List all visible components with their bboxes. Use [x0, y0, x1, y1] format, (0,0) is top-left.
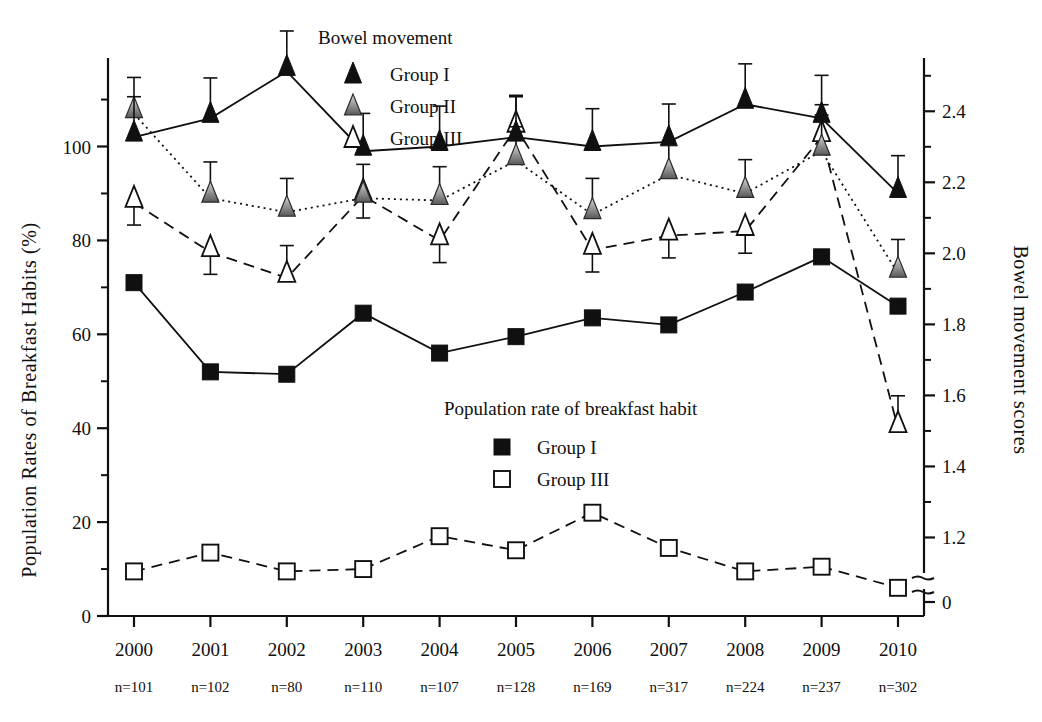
- marker-open-square: [355, 561, 371, 577]
- marker-open-square: [279, 563, 295, 579]
- left-tick-label: 20: [72, 512, 91, 533]
- marker-open-triangle: [890, 411, 907, 432]
- legend-bottom-title: Population rate of breakfast habit: [444, 398, 698, 419]
- x-sample-size-label: n=302: [879, 679, 917, 695]
- legend-top-title: Bowel movement: [318, 27, 453, 48]
- marker-filled-square: [737, 284, 753, 300]
- marker-open-square: [202, 545, 218, 561]
- marker-open-square: [126, 563, 142, 579]
- legend-top-item-label: Group III: [390, 128, 462, 149]
- legend-icon-filled-square: [494, 439, 510, 455]
- marker-gray-triangle: [890, 256, 907, 277]
- y-axis-left-title: Population Rates of Breakfast Habits (%): [18, 222, 41, 578]
- x-tick-label-year: 2009: [803, 639, 841, 660]
- right-tick-label: 0: [942, 592, 952, 613]
- right-tick-label: 1.4: [942, 456, 966, 477]
- marker-filled-square: [279, 366, 295, 382]
- x-sample-size-label: n=101: [115, 679, 153, 695]
- marker-open-square: [584, 505, 600, 521]
- marker-filled-square: [126, 275, 142, 291]
- series-line-breakfast-group-i: [134, 257, 898, 374]
- legend-icon-filled-triangle: [345, 62, 362, 83]
- left-tick-label: 100: [63, 137, 92, 158]
- left-tick-label: 40: [72, 418, 91, 439]
- marker-open-triangle: [126, 186, 143, 207]
- chart-canvas: 02040608010001.21.41.61.82.02.22.42000n=…: [0, 0, 1042, 722]
- x-tick-label-year: 2005: [497, 639, 535, 660]
- axis-break-mark-upper: [912, 577, 934, 580]
- marker-open-square: [661, 540, 677, 556]
- y-axis-right-title: Bowel movement scores: [1010, 245, 1032, 454]
- marker-filled-triangle: [737, 87, 754, 108]
- marker-gray-triangle: [660, 158, 677, 179]
- legend-top-item-label: Group I: [390, 64, 450, 85]
- legend-bottom-item-label: Group III: [537, 469, 609, 490]
- marker-filled-square: [508, 329, 524, 345]
- marker-open-square: [737, 563, 753, 579]
- right-tick-label: 1.2: [942, 527, 966, 548]
- right-tick-label: 2.0: [942, 243, 966, 264]
- marker-gray-triangle: [508, 144, 525, 165]
- marker-filled-square: [432, 345, 448, 361]
- marker-gray-triangle: [278, 195, 295, 216]
- marker-open-square: [890, 580, 906, 596]
- chart-figure: 02040608010001.21.41.61.82.02.22.42000n=…: [0, 0, 1042, 722]
- marker-filled-square: [355, 305, 371, 321]
- x-sample-size-label: n=107: [420, 679, 459, 695]
- left-tick-label: 80: [72, 230, 91, 251]
- marker-filled-square: [890, 298, 906, 314]
- marker-filled-square: [661, 317, 677, 333]
- x-sample-size-label: n=110: [344, 679, 382, 695]
- marker-filled-triangle: [126, 120, 143, 141]
- marker-open-square: [814, 559, 830, 575]
- marker-open-square: [432, 528, 448, 544]
- x-tick-label-year: 2004: [421, 639, 460, 660]
- legend-icon-open-triangle: [345, 126, 362, 147]
- legend-icon-gray-triangle: [345, 94, 362, 115]
- marker-open-triangle: [584, 233, 601, 254]
- marker-filled-square: [202, 364, 218, 380]
- marker-filled-triangle: [584, 130, 601, 151]
- left-tick-label: 0: [82, 606, 92, 627]
- right-tick-label: 2.4: [942, 101, 966, 122]
- marker-gray-triangle: [431, 184, 448, 205]
- marker-filled-triangle: [278, 54, 295, 75]
- marker-open-triangle: [431, 223, 448, 244]
- right-tick-label: 1.6: [942, 385, 966, 406]
- marker-gray-triangle: [584, 198, 601, 219]
- x-tick-label-year: 2008: [726, 639, 764, 660]
- marker-gray-triangle: [737, 176, 754, 197]
- x-sample-size-label: n=224: [726, 679, 765, 695]
- x-tick-label-year: 2002: [268, 639, 306, 660]
- marker-gray-triangle: [202, 181, 219, 202]
- x-tick-label-year: 2001: [191, 639, 229, 660]
- legend-icon-open-square: [494, 471, 510, 487]
- marker-open-square: [508, 542, 524, 558]
- legend-bottom-item-label: Group I: [537, 437, 597, 458]
- x-sample-size-label: n=80: [271, 679, 302, 695]
- x-sample-size-label: n=169: [573, 679, 611, 695]
- x-sample-size-label: n=237: [802, 679, 841, 695]
- x-tick-label-year: 2010: [879, 639, 917, 660]
- marker-filled-square: [584, 310, 600, 326]
- left-tick-label: 60: [72, 324, 91, 345]
- x-tick-label-year: 2006: [573, 639, 611, 660]
- x-tick-label-year: 2003: [344, 639, 382, 660]
- right-tick-label: 2.2: [942, 172, 966, 193]
- x-sample-size-label: n=128: [497, 679, 535, 695]
- x-sample-size-label: n=102: [191, 679, 229, 695]
- marker-filled-square: [814, 249, 830, 265]
- x-tick-label-year: 2007: [650, 639, 688, 660]
- right-tick-label: 1.8: [942, 314, 966, 335]
- x-sample-size-label: n=317: [650, 679, 689, 695]
- marker-filled-triangle: [660, 125, 677, 146]
- axis-break-mark-lower: [912, 591, 934, 594]
- x-tick-label-year: 2000: [115, 639, 153, 660]
- marker-filled-triangle: [202, 101, 219, 122]
- marker-open-triangle: [202, 235, 219, 256]
- marker-open-triangle: [660, 219, 677, 240]
- legend-top-item-label: Group II: [390, 96, 456, 117]
